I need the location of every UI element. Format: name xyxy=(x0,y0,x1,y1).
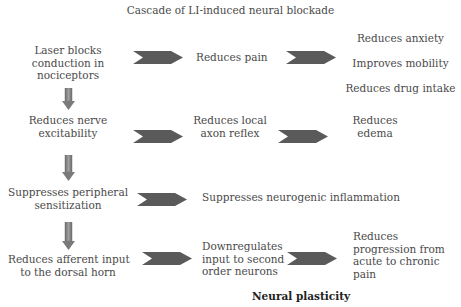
down-arrow-icon xyxy=(62,88,75,110)
text-line: axon reflex xyxy=(190,127,270,140)
text-line: Suppresses neurogenic inflammation xyxy=(202,191,400,204)
text-line: nociceptors xyxy=(18,69,118,82)
row2-middle-text: Reduces local axon reflex xyxy=(190,114,270,139)
neural-plasticity-label: Neural plasticity xyxy=(252,290,350,303)
chevron-right-arrow-icon xyxy=(287,252,337,265)
outcome-item: Reduces anxiety xyxy=(340,32,461,57)
row2-left-text: Reduces nerve excitability xyxy=(18,114,118,139)
text-line: Reduces xyxy=(353,230,445,243)
chevron-right-arrow-icon xyxy=(286,51,336,64)
text-line: to the dorsal horn xyxy=(8,266,128,279)
row4-left-text: Reduces afferent input to the dorsal hor… xyxy=(8,253,128,278)
row1-right-list: Reduces anxiety Improves mobility Reduce… xyxy=(340,32,461,95)
text-line: Reduces pain xyxy=(196,51,268,64)
chevron-right-arrow-icon xyxy=(278,130,328,143)
row3-left-text: Suppresses peripheral sensitization xyxy=(8,186,128,211)
text-line: acute to chronic xyxy=(353,255,445,268)
down-arrow-icon xyxy=(62,155,75,181)
row1-middle-text: Reduces pain xyxy=(196,51,268,64)
chevron-right-arrow-icon xyxy=(142,252,192,265)
outcome-item: Improves mobility xyxy=(340,57,461,82)
row2-right-text: Reduces edema xyxy=(345,114,405,139)
row4-right-text: Reduces progression from acute to chroni… xyxy=(353,230,445,280)
text-line: pain xyxy=(353,268,445,281)
row1-left-text: Laser blocks conduction in nociceptors xyxy=(18,44,118,82)
chevron-right-arrow-icon xyxy=(137,193,187,206)
down-arrow-icon xyxy=(62,222,75,250)
diagram-title: Cascade of LI-induced neural blockade xyxy=(0,4,461,16)
text-line: order neurons xyxy=(202,265,284,278)
text-line: Reduces xyxy=(345,114,405,127)
chevron-right-arrow-icon xyxy=(133,51,183,64)
text-line: Reduces afferent input xyxy=(8,253,128,266)
text-line: progression from xyxy=(353,243,445,256)
text-line: edema xyxy=(345,127,405,140)
text-line: Reduces local xyxy=(190,114,270,127)
outcome-item: Reduces drug intake xyxy=(340,82,461,95)
text-line: Downregulates xyxy=(202,240,284,253)
text-line: Suppresses peripheral xyxy=(8,186,128,199)
text-line: excitability xyxy=(18,127,118,140)
text-line: sensitization xyxy=(8,199,128,212)
text-line: input to second xyxy=(202,253,284,266)
row4-middle-text: Downregulates input to second order neur… xyxy=(202,240,284,278)
text-line: Laser blocks xyxy=(18,44,118,57)
text-line: conduction in xyxy=(18,57,118,70)
row3-middle-text: Suppresses neurogenic inflammation xyxy=(202,191,400,204)
chevron-right-arrow-icon xyxy=(133,130,183,143)
text-line: Reduces nerve xyxy=(18,114,118,127)
